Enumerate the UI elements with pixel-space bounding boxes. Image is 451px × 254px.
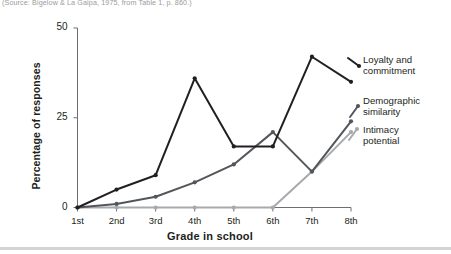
x-tick-label: 3rd xyxy=(139,215,173,226)
legend-label-line2: commitment xyxy=(363,66,449,77)
y-tick-label: 25 xyxy=(42,111,68,122)
data-point xyxy=(193,76,197,80)
data-point xyxy=(114,205,118,209)
line-chart: Percentage of responses Grade in school … xyxy=(0,0,451,254)
data-point xyxy=(154,195,158,199)
data-point xyxy=(232,144,236,148)
data-point xyxy=(114,187,118,191)
x-tick-label: 5th xyxy=(217,215,251,226)
data-point xyxy=(271,130,275,134)
x-tick-label: 6th xyxy=(256,215,290,226)
legend-label-line2: potential xyxy=(363,136,449,147)
legend-marker-2 xyxy=(355,127,359,131)
legend-marker-0 xyxy=(357,64,361,68)
x-tick-label: 1st xyxy=(61,215,95,226)
data-point xyxy=(154,205,158,209)
data-point xyxy=(349,119,353,123)
series-line-1 xyxy=(78,121,352,207)
data-point xyxy=(193,205,197,209)
data-point xyxy=(114,202,118,206)
legend-item-intimacy-potential: Intimacy potential xyxy=(363,125,449,147)
data-point xyxy=(154,173,158,177)
y-tick-label: 50 xyxy=(42,21,68,32)
y-axis-ticks xyxy=(74,28,78,208)
data-point xyxy=(271,205,275,209)
data-point xyxy=(232,162,236,166)
legend-marker-1 xyxy=(356,104,360,108)
legend-item-demographic-similarity: Demographic similarity xyxy=(363,96,449,118)
data-point xyxy=(271,144,275,148)
data-point xyxy=(349,80,353,84)
x-axis-title: Grade in school xyxy=(60,230,360,242)
y-tick-label: 0 xyxy=(42,201,68,212)
data-series-layer xyxy=(75,55,353,210)
x-tick-label: 2nd xyxy=(100,215,134,226)
y-axis-title: Percentage of responses xyxy=(30,46,42,206)
x-tick-label: 7th xyxy=(295,215,329,226)
x-tick-label: 4th xyxy=(178,215,212,226)
data-point xyxy=(75,205,79,209)
bottom-divider xyxy=(0,247,451,250)
data-point xyxy=(193,180,197,184)
legend-item-loyalty-and-commitment: Loyalty and commitment xyxy=(363,55,449,77)
legend-label-line2: similarity xyxy=(363,107,449,118)
x-tick-label: 8th xyxy=(334,215,368,226)
data-point xyxy=(310,55,314,59)
data-point xyxy=(310,170,314,174)
series-line-0 xyxy=(78,57,352,208)
data-point xyxy=(232,205,236,209)
legend-line-stubs xyxy=(348,58,361,140)
